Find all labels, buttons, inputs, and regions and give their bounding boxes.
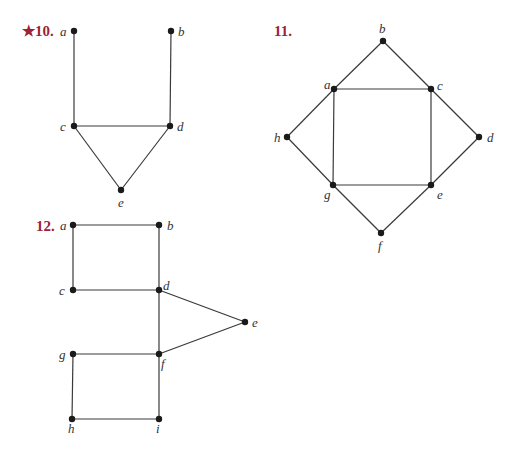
graph-12: abcdegfhi12. <box>36 218 258 436</box>
vertex-label-a: a <box>60 24 67 39</box>
vertex-d <box>156 287 162 293</box>
edge-h-g <box>287 137 333 185</box>
problem-number: 12. <box>36 218 55 234</box>
vertex-label-c: c <box>60 119 66 134</box>
vertex-label-e: e <box>437 187 443 202</box>
vertex-g <box>70 351 76 357</box>
vertex-label-d: d <box>163 278 170 293</box>
vertex-c <box>70 287 76 293</box>
vertex-g <box>330 182 336 188</box>
vertex-label-e: e <box>118 195 124 210</box>
vertex-label-b: b <box>167 218 174 233</box>
vertex-e <box>118 187 124 193</box>
vertex-label-f: f <box>161 356 167 371</box>
vertex-b <box>380 38 386 44</box>
vertex-a <box>70 222 76 228</box>
vertex-e <box>242 319 248 325</box>
graph-11: bachdgef11. <box>274 21 494 253</box>
problem-number: 11. <box>274 23 292 39</box>
graph-exercises-figure: abcde★10. bachdgef11. abcdegfhi12. <box>0 0 519 455</box>
vertex-label-d: d <box>177 119 184 134</box>
edge-c-d <box>431 89 479 137</box>
vertex-label-c: c <box>59 283 65 298</box>
vertex-e <box>428 182 434 188</box>
graph-10: abcde★10. <box>22 23 185 210</box>
edge-a-g <box>333 89 334 185</box>
vertex-d <box>476 134 482 140</box>
vertex-d <box>167 123 173 129</box>
edge-e-f <box>381 185 431 233</box>
vertex-h <box>284 134 290 140</box>
edge-f-e <box>159 322 245 354</box>
vertex-b <box>156 222 162 228</box>
vertex-label-a: a <box>60 218 67 233</box>
vertex-c <box>71 123 77 129</box>
edge-c-e <box>74 126 121 190</box>
vertex-label-h: h <box>68 421 75 436</box>
edge-g-f <box>333 185 381 233</box>
vertex-label-a: a <box>324 77 331 92</box>
vertex-label-g: g <box>59 347 66 362</box>
edge-g-h <box>72 354 73 419</box>
vertex-c <box>428 86 434 92</box>
vertex-label-h: h <box>274 130 281 145</box>
vertex-b <box>168 28 174 34</box>
vertex-label-b: b <box>379 21 386 36</box>
vertex-f <box>378 230 384 236</box>
vertex-label-i: i <box>156 421 160 436</box>
vertex-label-b: b <box>178 24 185 39</box>
problem-number: ★10. <box>22 23 54 39</box>
vertex-label-e: e <box>252 315 258 330</box>
vertex-label-c: c <box>437 78 443 93</box>
edge-b-d <box>170 31 171 126</box>
edge-d-e <box>159 290 245 322</box>
edge-b-c <box>383 41 431 89</box>
edge-b-a <box>334 41 383 89</box>
edge-d-e <box>121 126 170 190</box>
graphs-svg: abcde★10. bachdgef11. abcdegfhi12. <box>0 0 519 455</box>
edge-d-e <box>431 137 479 185</box>
vertex-label-g: g <box>324 187 331 202</box>
vertex-label-f: f <box>378 238 384 253</box>
vertex-label-d: d <box>487 130 494 145</box>
vertex-a <box>71 28 77 34</box>
vertex-a <box>331 86 337 92</box>
edge-a-h <box>287 89 334 137</box>
